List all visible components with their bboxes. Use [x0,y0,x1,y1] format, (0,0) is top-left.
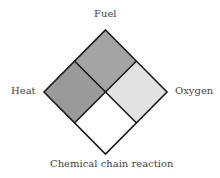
label-fuel: Fuel [94,8,117,19]
label-heat: Heat [11,85,36,96]
label-oxygen: Oxygen [175,85,213,96]
fire-diamond-diagram: Fuel Heat Oxygen Chemical chain reaction [0,0,220,178]
label-chemical-chain-reaction: Chemical chain reaction [50,158,173,169]
